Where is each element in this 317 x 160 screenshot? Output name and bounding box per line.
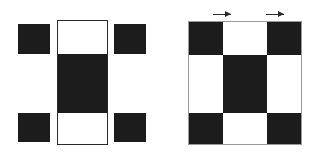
segment-center-panel-light-2 [58,113,107,144]
arrow-shaft [266,14,284,15]
arrow-shaft [213,14,231,15]
grid-cell-top-center [223,22,268,55]
grid-cell-bottom-right [267,113,301,144]
segment-right-strip-dark-2 [114,113,146,143]
grid-cell-bottom-left [189,113,223,144]
grid-cell-middle-center [223,55,268,114]
segment-right-strip-dark-0 [114,24,146,54]
strip-right-strip [114,24,146,142]
segment-center-panel-dark-1 [58,54,107,113]
grid-cell-middle-left [189,55,223,114]
strip-center-panel [57,20,108,145]
grid-cell-top-left [189,22,223,55]
figure-canvas [0,0,317,160]
segment-right-strip-light-1 [114,54,146,113]
segment-left-strip-dark-2 [18,113,50,143]
arrow-head [278,11,284,17]
grid-cell-bottom-center [223,113,268,144]
arrow-right-icon-0 [213,10,231,19]
arrow-head [225,11,231,17]
arrow-right-icon-1 [266,10,284,19]
segment-left-strip-dark-0 [18,24,50,54]
segment-center-panel-light-0 [58,21,107,54]
segment-left-strip-light-1 [18,54,50,113]
strip-left-strip [18,24,50,142]
checkerboard-grid [188,21,302,145]
grid-cell-middle-right [267,55,301,114]
grid-cell-top-right [267,22,301,55]
